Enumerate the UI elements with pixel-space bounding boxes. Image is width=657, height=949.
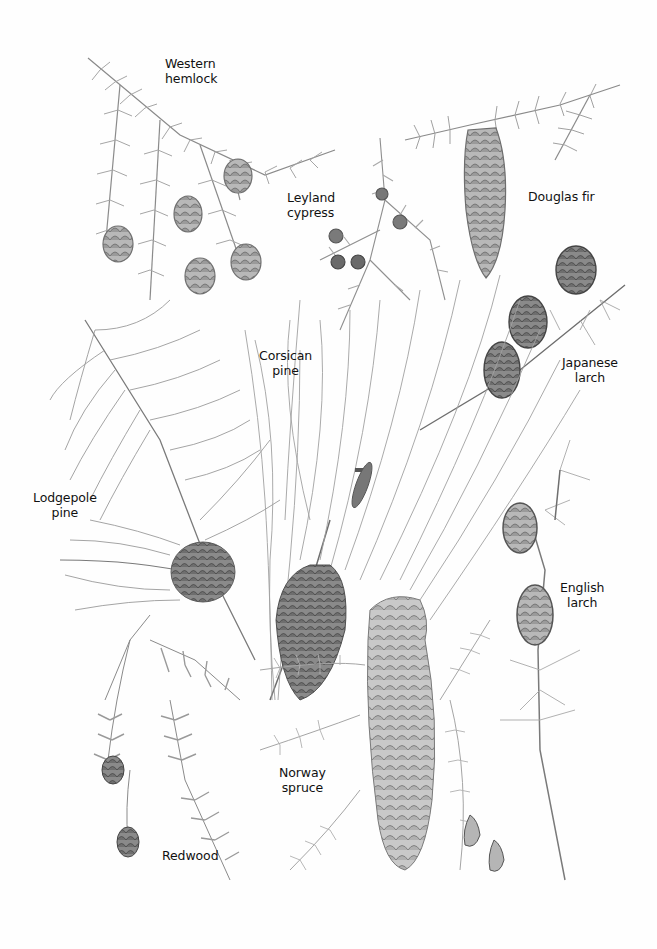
western-hemlock-branch: [88, 58, 335, 300]
conifer-illustration: Western hemlock Leyland cypress Douglas …: [0, 0, 657, 949]
label-douglas-fir: Douglas fir: [528, 189, 595, 204]
label-lodgepole-pine: Lodgepole pine: [33, 490, 97, 520]
leyland-cypress-branch: [320, 138, 448, 330]
japanese-larch-branch: [420, 246, 625, 430]
label-western-hemlock: Western hemlock: [165, 56, 217, 86]
label-english-larch: English larch: [560, 580, 604, 610]
redwood-branch: [94, 615, 240, 880]
label-norway-spruce: Norway spruce: [279, 765, 326, 795]
label-redwood: Redwood: [162, 848, 219, 863]
label-corsican-pine: Corsican pine: [259, 348, 312, 378]
lodgepole-pine-branch: [50, 300, 280, 660]
douglas-fir-branch: [405, 84, 620, 278]
conifer-drawing: [0, 0, 657, 949]
english-larch-branch: [500, 440, 590, 880]
label-leyland-cypress: Leyland cypress: [287, 190, 335, 220]
label-japanese-larch: Japanese larch: [562, 355, 618, 385]
